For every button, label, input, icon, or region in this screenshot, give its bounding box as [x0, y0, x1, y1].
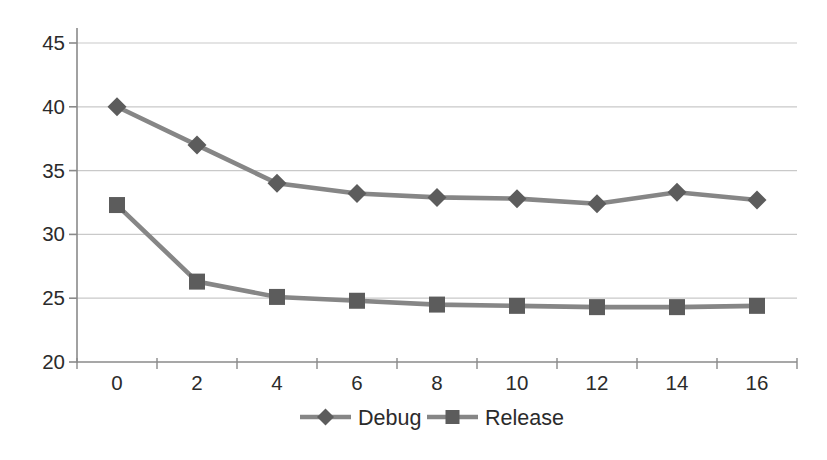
release-marker-8 — [429, 297, 445, 313]
legend-release-square-icon — [446, 410, 460, 424]
release-marker-4 — [269, 289, 285, 305]
release-marker-14 — [669, 299, 685, 315]
debug-marker-0 — [108, 97, 127, 116]
legend-label-debug: Debug — [358, 406, 421, 430]
release-marker-2 — [189, 274, 205, 290]
debug-marker-6 — [348, 184, 367, 203]
x-tick-label-12: 12 — [586, 371, 609, 394]
release-marker-16 — [749, 298, 765, 314]
x-tick-label-8: 8 — [431, 371, 442, 394]
y-tick-label-45: 45 — [42, 31, 65, 54]
y-tick-label-20: 20 — [42, 350, 65, 373]
y-tick-label-30: 30 — [42, 222, 65, 245]
legend-debug-diamond-icon — [317, 409, 334, 426]
release-marker-0 — [109, 197, 125, 213]
y-tick-label-40: 40 — [42, 95, 65, 118]
debug-marker-14 — [668, 183, 687, 202]
debug-marker-2 — [188, 136, 207, 155]
chart-figure: 2025303540450246810121416DebugRelease — [0, 0, 827, 460]
x-tick-label-10: 10 — [506, 371, 529, 394]
x-tick-label-0: 0 — [111, 371, 122, 394]
debug-marker-12 — [588, 194, 607, 213]
debug-marker-10 — [508, 189, 527, 208]
debug-marker-16 — [748, 190, 767, 209]
release-marker-10 — [509, 298, 525, 314]
legend-label-release: Release — [485, 406, 564, 430]
x-tick-label-2: 2 — [191, 371, 202, 394]
y-tick-label-35: 35 — [42, 159, 65, 182]
debug-marker-8 — [428, 188, 447, 207]
x-tick-label-6: 6 — [351, 371, 362, 394]
debug-marker-4 — [268, 174, 287, 193]
y-tick-label-25: 25 — [42, 286, 65, 309]
line-chart: 2025303540450246810121416DebugRelease — [0, 0, 827, 460]
x-tick-label-4: 4 — [271, 371, 282, 394]
release-marker-12 — [589, 299, 605, 315]
release-marker-6 — [349, 293, 365, 309]
release-series-line — [117, 205, 757, 307]
x-tick-label-16: 16 — [746, 371, 769, 394]
x-tick-label-14: 14 — [666, 371, 689, 394]
